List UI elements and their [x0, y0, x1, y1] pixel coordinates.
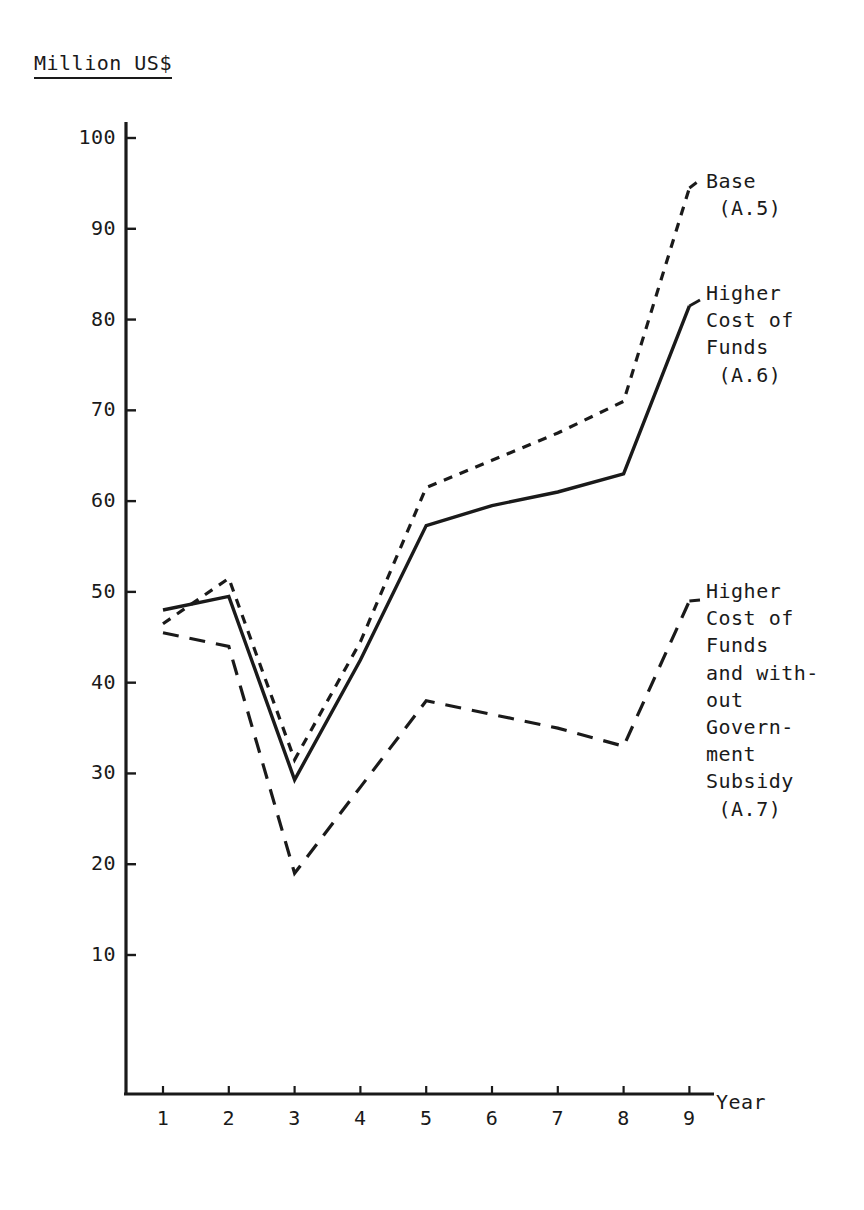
x-axis-tick-label: 5	[413, 1108, 439, 1128]
y-axis-tick-label: 70	[68, 399, 116, 419]
y-axis-tick-label: 20	[68, 853, 116, 873]
series-label-base-a5: Base (A.5)	[706, 168, 781, 222]
y-axis-tick-label: 80	[68, 309, 116, 329]
x-axis-tick-label: 6	[479, 1108, 505, 1128]
y-axis-tick-label: 40	[68, 672, 116, 692]
x-axis-tick-label: 8	[611, 1108, 637, 1128]
series-line-a5	[163, 188, 689, 760]
x-axis-tick-label: 7	[545, 1108, 571, 1128]
series-leader-line	[689, 180, 700, 188]
series-leader-line	[689, 600, 700, 601]
y-axis-tick-label: 100	[68, 127, 116, 147]
y-axis-tick-label: 10	[68, 944, 116, 964]
series-line-a7	[163, 601, 689, 873]
y-axis-tick-label: 30	[68, 762, 116, 782]
x-axis-tick-label: 9	[676, 1108, 702, 1128]
x-axis-tick-label: 4	[347, 1108, 373, 1128]
y-axis-tick-label: 90	[68, 218, 116, 238]
series-paths	[163, 180, 700, 873]
series-label-higher-cost-of-funds-a6: Higher Cost of Funds (A.6)	[706, 280, 794, 389]
x-axis-tick-label: 1	[150, 1108, 176, 1128]
series-leader-line	[689, 300, 700, 306]
x-axis-tick-label: 2	[216, 1108, 242, 1128]
y-axis-tick-label: 60	[68, 490, 116, 510]
y-axis-tick-label: 50	[68, 581, 116, 601]
series-label-higher-cost-no-subsidy-a7: Higher Cost of Funds and with- out Gover…	[706, 578, 819, 823]
series-line-a6	[163, 306, 689, 780]
line-chart: Million US$ Year 100908070605040302010 1…	[0, 0, 864, 1210]
x-axis-tick-label: 3	[282, 1108, 308, 1128]
